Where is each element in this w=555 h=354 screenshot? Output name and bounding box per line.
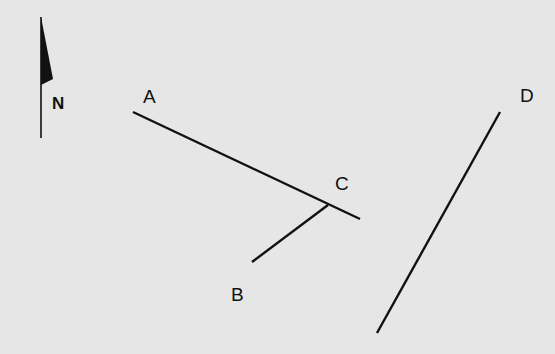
diagram-canvas: N A C B D	[0, 0, 555, 354]
label-b: B	[231, 284, 244, 305]
line-c-b	[252, 205, 328, 262]
line-a-c	[133, 112, 360, 219]
north-arrow-flag-icon	[41, 17, 53, 85]
north-label: N	[52, 94, 64, 113]
line-d	[377, 112, 500, 333]
north-arrow: N	[41, 17, 64, 138]
label-d: D	[520, 85, 534, 106]
label-c: C	[335, 173, 349, 194]
label-a: A	[143, 86, 156, 107]
